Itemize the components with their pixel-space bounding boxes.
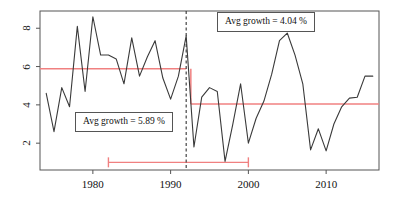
x-tick-label: 1980 — [82, 178, 104, 190]
x-tick-label: 2000 — [237, 178, 259, 190]
y-tick-label: 6 — [20, 64, 32, 70]
annotation-box-left: Avg growth = 5.89 % — [75, 112, 173, 132]
chart-plot-area — [0, 0, 393, 201]
x-tick-label: 1990 — [160, 178, 182, 190]
x-tick-label: 2010 — [315, 178, 337, 190]
chart-container: 1980199020002010 2468 Avg growth = 4.04 … — [0, 0, 393, 201]
y-tick-label: 4 — [20, 102, 32, 108]
annotation-box-right: Avg growth = 4.04 % — [217, 12, 315, 32]
y-tick-label: 2 — [20, 140, 32, 146]
y-tick-label: 8 — [20, 25, 32, 31]
